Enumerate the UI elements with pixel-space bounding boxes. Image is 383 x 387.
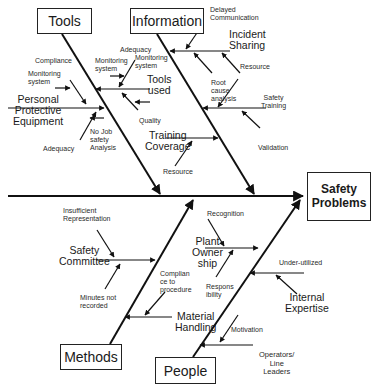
cause-compliance-to-procedure: Complian ce to procedure (160, 270, 192, 294)
category-people-box: People (155, 357, 216, 384)
cause-responsibility: Respons ibility (206, 283, 234, 299)
cause-no-job-safety-analysis: No Job safety Analysis (90, 128, 116, 152)
cause-quality: Quality (139, 117, 161, 125)
cause-adequacy: Adequacy (120, 46, 151, 54)
cause-minutes-not-recorded: Minutes not recorded (80, 294, 116, 310)
cause-insufficient-representation: Insufficient Representation (63, 207, 110, 223)
category-methods-box: Methods (60, 344, 122, 370)
cause-incident-sharing: Incident Sharing (229, 29, 266, 51)
category-tools-box: Tools (37, 8, 92, 34)
cause-motivation: Motivation (231, 326, 263, 334)
cause-training-coverage: Training Coverage (145, 130, 191, 152)
cause-internal-expertise: Internal Expertise (285, 292, 329, 314)
cause-resource: Resource (240, 63, 270, 71)
cause-adequacy: Adequacy (43, 145, 74, 153)
cause-tools-used: Tools used (147, 74, 172, 96)
cause-under-utilized: Under-utilized (279, 259, 322, 267)
cause-monitoring-system: Monitoring system (95, 57, 128, 73)
cause-material-handling: Material Handling (175, 311, 216, 333)
category-information-box: Information (130, 8, 204, 34)
cause-compliance: Compliance (35, 57, 72, 65)
cause-recognition: Recognition (207, 210, 244, 218)
cause-root-cause-analysis: Root cause analysis (211, 79, 236, 103)
cause-operators-line-leaders: Operators/ Line Leaders (259, 351, 294, 377)
cause-delayed-communication: Delayed Communication (210, 6, 259, 22)
effect-box: Safety Problems (307, 172, 371, 221)
cause-monitoring-system: Monitoring system (135, 54, 168, 70)
cause-validation: Validation (258, 144, 288, 152)
cause-plant-ownership: Plant Owner ship (192, 236, 223, 269)
cause-resource: Resource (163, 168, 193, 176)
cause-safety-training: Safety Training (261, 94, 286, 110)
cause-monitoring-system: Monitoring system (28, 70, 61, 86)
cause-ppe: Personal Protective Equipment (13, 94, 63, 127)
cause-safety-committee: Safety Committee (59, 245, 110, 267)
